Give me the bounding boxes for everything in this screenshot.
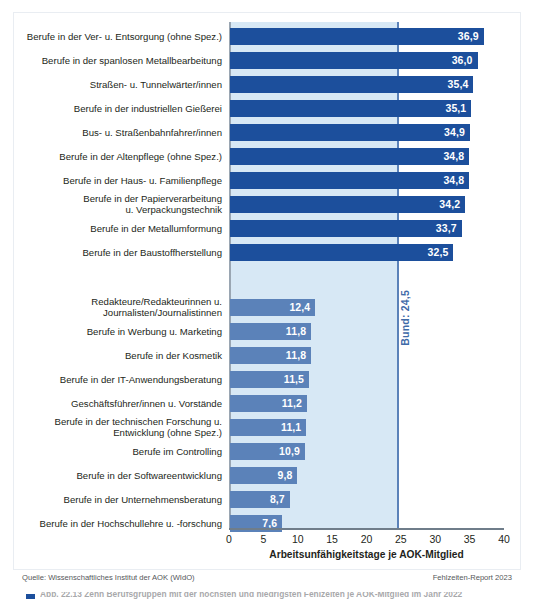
bar-value-label: 34,8 (443, 175, 464, 186)
category-label: Berufe in der Baustoffherstellung (16, 247, 222, 258)
bar: 35,4 (230, 76, 473, 93)
x-axis-tick-label: 30 (429, 533, 441, 545)
x-axis-tick-label: 35 (464, 533, 476, 545)
bar-value-label: 11,8 (286, 326, 306, 337)
x-axis-tick-label: 0 (226, 533, 232, 545)
reference-line-label: Bund: 24,5 (399, 290, 411, 346)
bar-value-label: 11,1 (281, 422, 301, 433)
category-label: Geschäftsführer/innen u. Vorstände (16, 398, 222, 409)
bar: 11,5 (230, 371, 309, 388)
bar-value-label: 8,7 (270, 494, 285, 505)
bar: 11,8 (230, 347, 311, 364)
bar: 10,9 (230, 443, 305, 460)
figure-caption: Abb. 22.13 Zehn Berufsgruppen mit der hö… (40, 592, 462, 599)
bar-value-label: 9,8 (277, 470, 292, 481)
bar: 11,1 (230, 419, 306, 436)
bar-value-label: 36,9 (458, 31, 479, 42)
bar: 11,8 (230, 323, 311, 340)
x-axis-tick-label: 20 (361, 533, 373, 545)
bar-value-label: 11,5 (284, 374, 304, 385)
category-label: Berufe in der Hochschullehre u. -forschu… (16, 518, 222, 529)
figure-caption-strip: Abb. 22.13 Zehn Berufsgruppen mit der hö… (0, 592, 534, 602)
category-label: Redakteure/Redakteurinnen u. Journaliste… (16, 296, 222, 319)
x-axis-line (229, 528, 504, 530)
report-note: Fehlzeiten-Report 2023 (433, 573, 512, 582)
category-label: Bus- u. Straßenbahnfahrer/innen (16, 127, 222, 138)
source-note: Quelle: Wissenschaftliches Institut der … (22, 573, 195, 582)
category-label: Berufe in der Papierverarbeitung u. Verp… (16, 193, 222, 216)
x-axis-tick-label: 5 (260, 533, 266, 545)
bar-value-label: 7,6 (262, 518, 277, 529)
bar: 12,4 (230, 299, 315, 316)
bar: 34,9 (230, 124, 470, 141)
x-axis-tick-label: 40 (498, 533, 510, 545)
bar-value-label: 36,0 (452, 55, 473, 66)
bar-value-label: 11,2 (282, 398, 302, 409)
bar: 32,5 (230, 244, 453, 261)
category-label: Berufe in der Softwareentwicklung (16, 470, 222, 481)
bar: 8,7 (230, 491, 290, 508)
category-label: Berufe in der Metallumformung (16, 223, 222, 234)
category-label: Straßen- u. Tunnelwärter/innen (16, 79, 222, 90)
bar-value-label: 33,7 (436, 223, 457, 234)
category-label: Berufe im Controlling (16, 446, 222, 457)
bar: 34,2 (230, 196, 465, 213)
bar-value-label: 34,9 (444, 127, 465, 138)
bar-value-label: 10,9 (279, 446, 300, 457)
category-label: Berufe in der spanlosen Metallbearbeitun… (16, 55, 222, 66)
bar: 36,0 (230, 52, 478, 69)
bar-value-label: 11,8 (286, 350, 306, 361)
x-axis-ticks: 0510152025303540 (229, 533, 504, 549)
bar: 33,7 (230, 220, 462, 237)
bar: 35,1 (230, 100, 471, 117)
category-label: Berufe in der industriellen Gießerei (16, 103, 222, 114)
category-label: Berufe in Werbung u. Marketing (16, 326, 222, 337)
category-label: Berufe in der Unternehmensberatung (16, 494, 222, 505)
plot-area: Bund: 24,5 36,936,035,435,134,934,834,83… (229, 22, 504, 530)
bar: 36,9 (230, 28, 484, 45)
bar: 34,8 (230, 172, 469, 189)
bar-value-label: 34,8 (443, 151, 464, 162)
bar-value-label: 34,2 (439, 199, 460, 210)
bar: 34,8 (230, 148, 469, 165)
bar-value-label: 12,4 (289, 302, 310, 313)
reference-line-bund (397, 22, 399, 530)
x-axis-tick-label: 10 (292, 533, 304, 545)
bar-value-label: 35,4 (448, 79, 469, 90)
chart-figure: Berufe in der Ver- u. Entsorgung (ohne S… (0, 0, 534, 602)
bar-value-label: 35,1 (445, 103, 466, 114)
bar: 9,8 (230, 467, 297, 484)
category-label: Berufe in der IT-Anwendungsberatung (16, 374, 222, 385)
x-axis-title: Arbeitsunfähigkeitstage je AOK-Mitglied (229, 549, 504, 560)
category-label-column: Berufe in der Ver- u. Entsorgung (ohne S… (16, 22, 224, 530)
x-axis-tick-label: 25 (395, 533, 407, 545)
category-label: Berufe in der Ver- u. Entsorgung (ohne S… (16, 31, 222, 42)
category-label: Berufe in der Kosmetik (16, 350, 222, 361)
category-label: Berufe in der Altenpflege (ohne Spez.) (16, 151, 222, 162)
bar: 11,2 (230, 395, 307, 412)
caption-marker-icon (26, 594, 35, 599)
category-label: Berufe in der Haus- u. Familienpflege (16, 175, 222, 186)
category-label: Berufe in der technischen Forschung u. E… (16, 416, 222, 439)
x-axis-tick-label: 15 (326, 533, 338, 545)
bar-value-label: 32,5 (428, 247, 449, 258)
